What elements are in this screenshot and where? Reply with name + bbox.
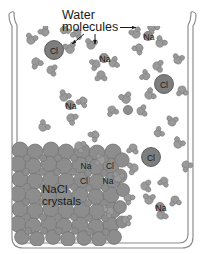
label-na-crystal-bottom: Na [103, 176, 114, 186]
nacl-dissolution-figure: Cl Na Na Cl Na Cl Na Cl Cl Na Na NaCl cr… [0, 0, 205, 254]
label-na-mid-left: Na [66, 101, 77, 111]
beaker-contents: Cl Na Na Cl Na Cl Na Cl Cl Na Na NaCl cr… [10, 20, 194, 247]
label-na-upper-mid: Na [100, 54, 111, 64]
nacl-crystals-line2: crystals [42, 195, 81, 207]
label-cl-right-upper: Cl [160, 80, 168, 90]
label-na-crystal-top: Na [81, 161, 92, 171]
nacl-crystals-line1: NaCl [42, 183, 68, 195]
diagram-canvas: Cl Na Na Cl Na Cl Na Cl Cl Na Na NaCl cr… [0, 0, 205, 254]
sodium-ion-center [123, 105, 132, 114]
water-molecules-line2: molecules [62, 20, 118, 34]
label-cl-right-lower: Cl [147, 153, 155, 163]
label-cl-top-left: Cl [50, 46, 58, 56]
label-na-top-right: Na [144, 32, 155, 42]
label-cl-crystal-bottom: Cl [80, 176, 88, 186]
water-molecules-callout: Water molecules [62, 8, 136, 44]
label-na-bottom-right: Na [156, 203, 167, 213]
label-cl-crystal-top: Cl [106, 161, 114, 171]
